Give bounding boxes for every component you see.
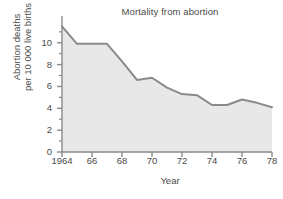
x-tick-label: 78 [252,156,283,166]
y-tick-label: 8 [32,60,52,70]
chart-figure: Mortality from abortion Abortion deaths … [0,0,283,199]
plot-area [0,0,283,199]
area-fill [62,26,272,152]
y-tick-label: 10 [32,38,52,48]
y-tick-label: 2 [32,125,52,135]
y-tick-label: 4 [32,103,52,113]
y-tick-label: 6 [32,81,52,91]
